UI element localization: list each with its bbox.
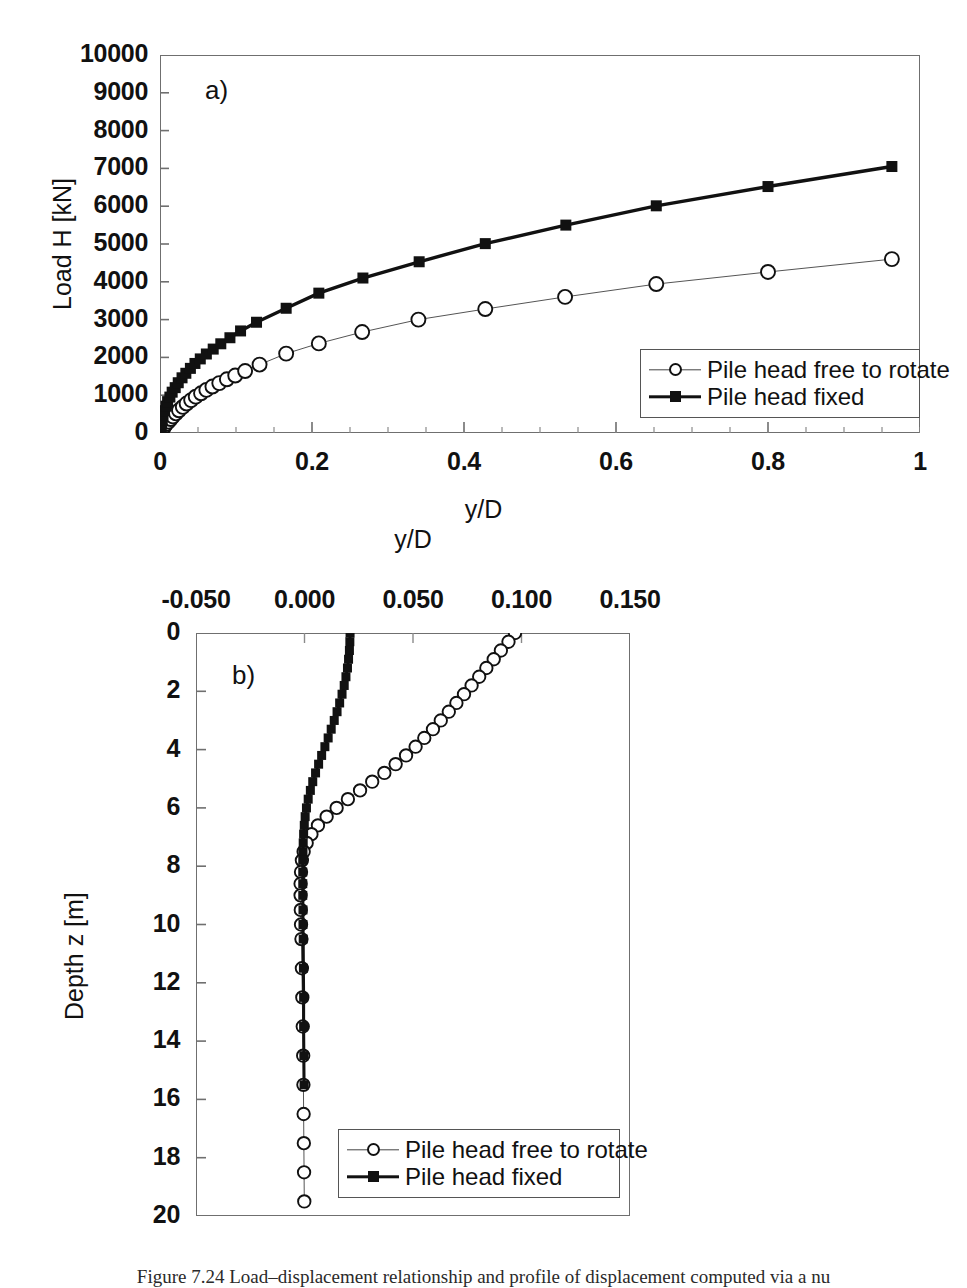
legend-row-fixed: Pile head fixed [347, 1163, 609, 1190]
panel-b-legend: Pile head free to rotate Pile head fixed [338, 1129, 620, 1198]
panel-a-y-tick: 1000 [40, 379, 148, 408]
open-circle-marker-icon [347, 1140, 399, 1160]
legend-label-free: Pile head free to rotate [405, 1137, 648, 1163]
panel-b-y-tick: 6 [90, 792, 180, 821]
legend-row-free: Pile head free to rotate [649, 356, 909, 383]
panel-a-x-tick: 0.2 [262, 447, 362, 476]
panel-a-y-tick: 6000 [40, 190, 148, 219]
panel-a-y-tick: 7000 [40, 152, 148, 181]
legend-label-fixed: Pile head fixed [405, 1164, 562, 1190]
panel-b-y-tick: 8 [90, 850, 180, 879]
legend-row-free: Pile head free to rotate [347, 1136, 609, 1163]
panel-a-x-tick: 0.4 [414, 447, 514, 476]
panel-a-y-tick: 8000 [40, 115, 148, 144]
legend-row-fixed: Pile head fixed [649, 383, 909, 410]
panel-b-y-axis-title: Depth z [m] [60, 892, 89, 1020]
panel-b-y-tick: 18 [90, 1142, 180, 1171]
panel-a-label: a) [205, 75, 228, 106]
panel-a-x-axis-title: y/D [0, 495, 967, 524]
filled-square-marker-icon [649, 387, 701, 407]
panel-b-y-tick: 0 [90, 617, 180, 646]
panel-a-y-tick: 5000 [40, 228, 148, 257]
panel-b-y-tick: 4 [90, 734, 180, 763]
panel-a-y-tick: 9000 [40, 77, 148, 106]
open-circle-marker-icon [649, 360, 701, 380]
panel-b-label: b) [232, 660, 255, 691]
panel-a-x-tick: 0 [110, 447, 210, 476]
panel-a-y-tick: 10000 [40, 39, 148, 68]
panel-b-y-tick: 20 [90, 1200, 180, 1229]
legend-label-free: Pile head free to rotate [707, 357, 950, 383]
panel-a-legend: Pile head free to rotate Pile head fixed [640, 349, 920, 418]
panel-b-x-axis-title: y/D [196, 525, 630, 554]
panel-a-x-tick: 0.6 [566, 447, 666, 476]
panel-a-x-tick: 1 [870, 447, 967, 476]
panel-b-y-tick: 14 [90, 1025, 180, 1054]
panel-b-y-tick: 2 [90, 675, 180, 704]
legend-label-fixed: Pile head fixed [707, 384, 864, 410]
filled-square-marker-icon [347, 1167, 399, 1187]
panel-a-y-tick: 2000 [40, 341, 148, 370]
panel-a-y-tick: 0 [40, 417, 148, 446]
panel-a-x-tick: 0.8 [718, 447, 818, 476]
panel-b-y-tick: 12 [90, 967, 180, 996]
panel-b-x-tick: 0.150 [560, 585, 700, 614]
panel-b-y-tick: 10 [90, 909, 180, 938]
panel-a-y-tick: 3000 [40, 304, 148, 333]
panel-b-y-tick: 16 [90, 1083, 180, 1112]
panel-a-y-tick: 4000 [40, 266, 148, 295]
figure-caption: Figure 7.24 Load–displacement relationsh… [0, 1266, 967, 1288]
